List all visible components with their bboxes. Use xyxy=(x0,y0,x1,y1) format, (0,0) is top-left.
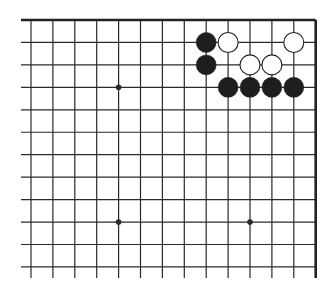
black-stone xyxy=(262,77,282,97)
star-point xyxy=(116,85,122,91)
star-point xyxy=(116,219,122,225)
white-stone xyxy=(262,55,282,75)
black-stone xyxy=(196,32,216,52)
black-stone xyxy=(218,77,238,97)
go-board xyxy=(0,0,335,299)
black-stone xyxy=(196,55,216,75)
white-stone xyxy=(218,32,238,52)
black-stone xyxy=(284,77,304,97)
white-stone xyxy=(240,55,260,75)
white-stone xyxy=(284,32,304,52)
black-stone xyxy=(240,77,260,97)
star-point xyxy=(247,219,253,225)
